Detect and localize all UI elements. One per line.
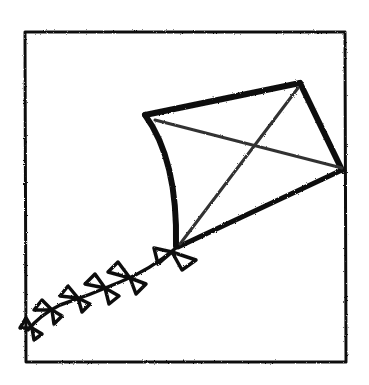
kite-tail [20,248,196,340]
kite-illustration [0,0,369,385]
kite-body [145,83,342,247]
